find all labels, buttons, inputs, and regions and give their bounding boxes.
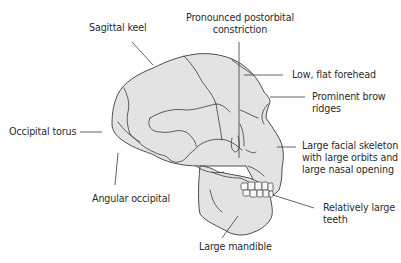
leader-sagittal-keel [132,42,153,65]
label-sagittal-keel: Sagittal keel [89,22,147,34]
label-brow-line1: Prominent brow [312,91,386,103]
label-postorbital-constriction: Pronounced postorbital constriction [180,12,300,36]
leader-angular-occipital [115,153,118,185]
label-large-facial-skeleton: Large facial skeleton with large orbits … [302,140,398,176]
label-postorbital-line1: Pronounced postorbital [180,12,300,24]
label-facial-line3: large nasal opening [302,164,398,176]
label-facial-line1: Large facial skeleton [302,140,398,152]
label-teeth-line2: teeth [323,214,395,226]
label-low-flat-forehead: Low, flat forehead [292,69,376,81]
label-facial-line2: with large orbits and [302,152,398,164]
label-relatively-large-teeth: Relatively large teeth [323,202,395,226]
teeth [241,182,273,197]
label-brow-line2: ridges [312,103,386,115]
label-angular-occipital: Angular occipital [92,193,170,205]
label-teeth-line1: Relatively large [323,202,395,214]
skull-diagram: Sagittal keel Pronounced postorbital con… [0,0,401,263]
label-prominent-brow-ridges: Prominent brow ridges [312,91,386,115]
label-occipital-torus: Occipital torus [9,126,76,138]
label-large-mandible: Large mandible [199,241,272,253]
label-postorbital-line2: constriction [180,24,300,36]
leader-teeth [273,195,314,208]
